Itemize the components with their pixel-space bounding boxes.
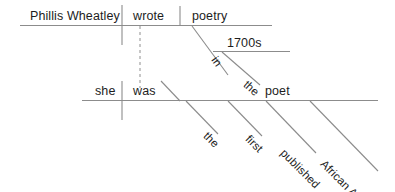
label-complement-poet: poet xyxy=(265,85,290,98)
adjective-published-slant xyxy=(266,101,316,153)
adjective-first-slant xyxy=(228,101,262,136)
label-prep-object-1700s: 1700s xyxy=(227,37,262,50)
adjective-african-american-slant xyxy=(310,101,378,171)
predicate-nominative-divider xyxy=(161,81,180,101)
label-verb-main: wrote xyxy=(133,10,164,23)
sentence-diagram: Phillis Wheatley wrote poetry 1700s she … xyxy=(0,0,395,192)
article-the-1700s-slant xyxy=(222,52,260,85)
diagram-lines xyxy=(0,0,395,192)
preposition-in-slant xyxy=(192,26,228,75)
adjective-the-slant xyxy=(186,101,218,134)
label-subject-main: Phillis Wheatley xyxy=(30,10,120,23)
label-verb-second: was xyxy=(133,85,156,98)
label-object-main: poetry xyxy=(192,10,227,23)
label-subject-second: she xyxy=(95,85,115,98)
